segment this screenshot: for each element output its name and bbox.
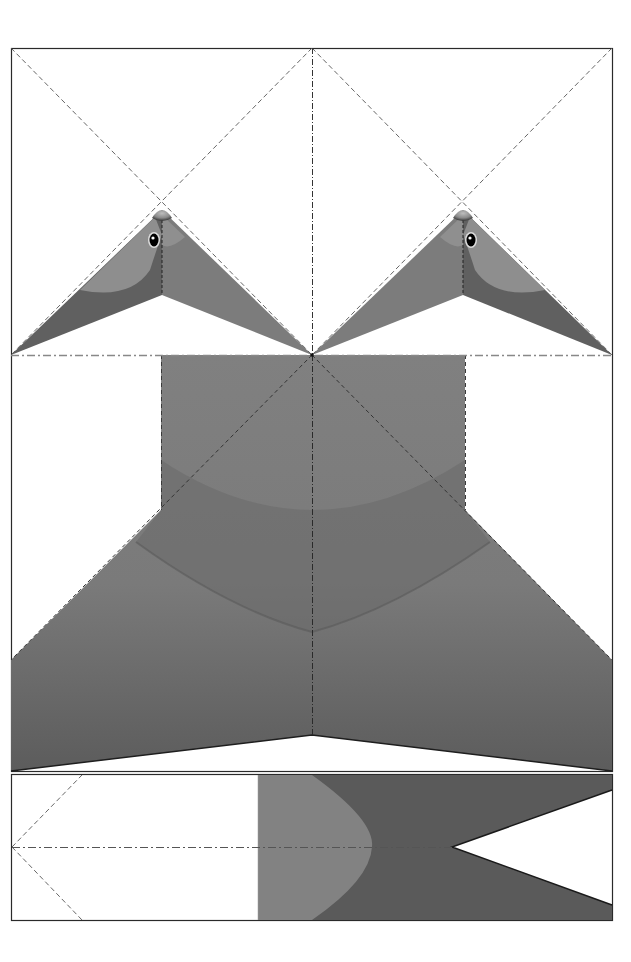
beak-left bbox=[152, 210, 172, 221]
head-left-outer-face bbox=[11, 210, 162, 355]
head-right-outer-face bbox=[463, 210, 612, 355]
beak-right bbox=[453, 210, 473, 221]
sheet-top bbox=[11, 48, 613, 772]
eye-right-glint bbox=[468, 236, 471, 239]
center-junction bbox=[310, 353, 314, 357]
eye-left-glint bbox=[151, 236, 154, 239]
eye-right bbox=[467, 234, 476, 247]
tail-piece bbox=[12, 775, 613, 921]
head-left-inner-face bbox=[162, 210, 312, 355]
eye-left bbox=[150, 234, 159, 247]
body-piece bbox=[11, 355, 612, 771]
head-right-inner-face bbox=[312, 210, 463, 355]
head-left bbox=[11, 210, 312, 355]
head-right bbox=[312, 210, 612, 355]
papercraft-sheet bbox=[0, 0, 631, 962]
